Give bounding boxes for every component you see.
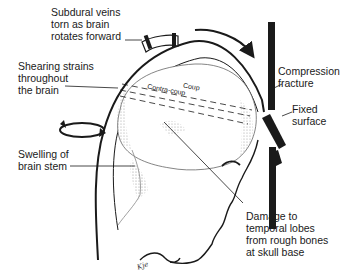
label-swelling-brain-stem: Swelling of brain stem: [18, 148, 69, 172]
label-fixed-surface: Fixed surface: [292, 103, 326, 127]
label-shearing-strains: Shearing strains throughout the brain: [18, 60, 94, 96]
label-compression-fracture: Compression fracture: [278, 65, 340, 89]
subdural-veins: [142, 33, 178, 52]
fixed-surface-bar: [262, 22, 286, 229]
brain: [118, 64, 257, 170]
head-injury-diagram: Subdural veins torn as brain rotates for…: [0, 0, 355, 279]
label-subdural-veins: Subdural veins torn as brain rotates for…: [51, 6, 121, 42]
label-temporal-lobe-damage: Damage to temporal lobes from rough bone…: [246, 210, 328, 258]
circular-arrow-icon: [60, 123, 104, 137]
